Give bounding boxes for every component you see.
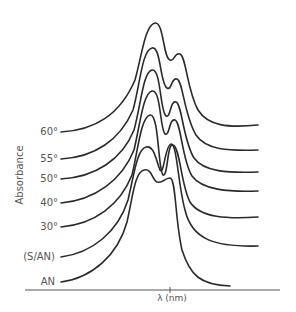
curve-label-40: 40° (40, 197, 58, 208)
curve-60 (61, 23, 258, 132)
curve-label-30: 30° (40, 221, 58, 232)
curve-label-55: 55° (40, 153, 58, 164)
x-axis-label: λ (nm) (157, 293, 187, 303)
curve-an (61, 170, 230, 286)
curve-40 (61, 91, 258, 203)
absorbance-spectra-chart: Absorbance 60° 55° 50° 40° 30° (S/AN) AN… (0, 0, 296, 312)
curve-label-an: AN (41, 276, 55, 287)
y-axis-label: Absorbance (14, 145, 25, 204)
curve-label-60: 60° (40, 126, 58, 137)
curve-label-san: (S/AN) (23, 251, 55, 262)
curve-label-50: 50° (40, 173, 58, 184)
